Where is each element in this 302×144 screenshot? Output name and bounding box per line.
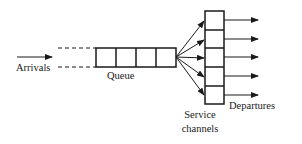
queue-boxes [96, 48, 176, 67]
service-label-line1: Service [184, 110, 216, 121]
departures-label: Departures [229, 101, 275, 112]
queue-dashed-lines [58, 48, 96, 67]
arrivals-label: Arrivals [16, 63, 50, 74]
queue-label: Queue [107, 71, 134, 82]
service-label-line2: channels [182, 124, 219, 135]
service-channels [205, 11, 224, 104]
departure-arrows [224, 20, 258, 95]
fan-out-arrows [176, 21, 204, 95]
